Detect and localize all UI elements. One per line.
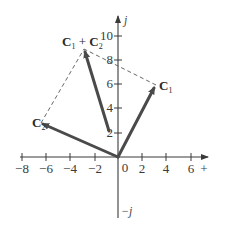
x-tick-label: −2: [88, 161, 102, 176]
vector-c1: [118, 88, 154, 157]
c1-label: C1: [159, 78, 172, 95]
y-tick-label: 4: [107, 100, 114, 115]
x-tick-label: 6: [188, 161, 195, 176]
c1-plus-c2-label: C1 + C2: [62, 34, 103, 51]
vectors: [43, 52, 154, 157]
minus-j-axis-label: −j: [121, 204, 133, 218]
real-axis-plus-label: +: [200, 161, 207, 176]
y-tick-label: 8: [107, 52, 114, 67]
y-tick-label: 6: [107, 76, 114, 91]
j-axis-label: j: [122, 13, 128, 27]
vector-c1-plus-c2: [85, 52, 109, 131]
dashed-line-c2-to-sum: [41, 49, 84, 123]
x-tick-label: −4: [63, 161, 77, 176]
x-tick-label: −8: [15, 161, 29, 176]
vector-addition-diagram: −8 −6 −4 −2 0 2 4 6 + 10 8 6 4 2 j −j: [0, 0, 228, 237]
x-tick-label: 4: [163, 161, 170, 176]
x-tick-label: −6: [39, 161, 53, 176]
parallelogram-construction: [41, 49, 156, 123]
c2-label: C2: [32, 115, 45, 132]
origin-label: 0: [122, 160, 129, 175]
y-tick-label: 10: [100, 28, 113, 43]
real-axis: −8 −6 −4 −2 0 2 4 6 +: [15, 153, 208, 176]
x-tick-label: 2: [139, 161, 146, 176]
